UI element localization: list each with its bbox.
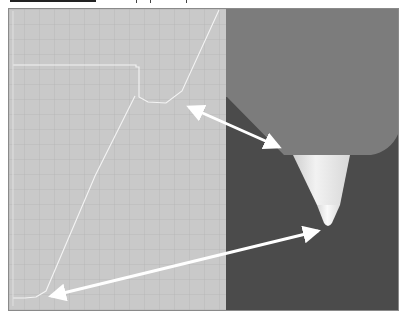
caption-glyph-fragment	[150, 0, 151, 3]
right-panel-nozzle-photo	[226, 9, 399, 311]
composite-figure	[8, 8, 399, 311]
left-panel-grid	[9, 9, 226, 311]
caption-glyph-fragment	[136, 0, 137, 3]
cropped-caption-fragments	[0, 0, 407, 6]
caption-glyph-fragment	[186, 0, 187, 3]
caption-underline	[10, 0, 96, 2]
